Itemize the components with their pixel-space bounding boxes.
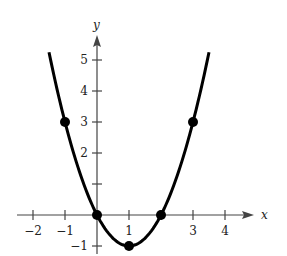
x-tick-label: 3 <box>189 224 197 238</box>
parabola-chart: −2−1134 −12345 x y <box>0 0 287 256</box>
y-tick-label: 4 <box>80 84 88 98</box>
y-axis: −12345 <box>70 35 102 254</box>
x-tick-label: −2 <box>24 224 42 238</box>
y-tick-label: −1 <box>70 239 88 253</box>
x-tick-label: −1 <box>56 224 74 238</box>
x-axis: −2−1134 <box>17 210 254 238</box>
data-point <box>156 210 166 220</box>
y-tick-label: 5 <box>80 53 88 67</box>
data-point <box>92 210 102 220</box>
x-tick-label: 4 <box>221 224 229 238</box>
x-tick-label: 1 <box>125 224 133 238</box>
data-point <box>60 117 70 127</box>
data-point <box>124 241 134 251</box>
y-axis-label: y <box>92 18 100 32</box>
data-point <box>188 117 198 127</box>
y-tick-label: 3 <box>80 115 88 129</box>
y-tick-label: 2 <box>80 146 88 160</box>
x-axis-label: x <box>261 208 268 222</box>
